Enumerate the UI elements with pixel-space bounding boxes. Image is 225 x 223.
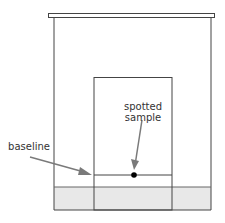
solvent-layer [54,187,211,210]
baseline-arrow [30,157,92,175]
tlc-diagram [0,0,225,223]
chamber-lid [49,14,215,18]
spotted-sample-label: spotted sample [120,101,166,123]
sample-spot [131,172,137,178]
baseline-label: baseline [7,141,51,152]
spotted-sample-label-line2: sample [120,112,166,123]
spotted-sample-label-line1: spotted [120,101,166,112]
spotted-sample-arrow [131,120,142,170]
